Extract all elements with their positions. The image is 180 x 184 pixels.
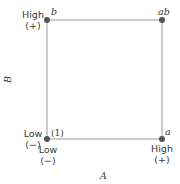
a-low-level: Low (−): [36, 144, 60, 166]
a-high-level: High (+): [149, 143, 175, 165]
corner-label-a: a: [165, 126, 171, 137]
point-ab: [159, 17, 165, 23]
point-b: [44, 17, 50, 23]
b-high-sign: (+): [22, 20, 44, 31]
corner-label-ab: ab: [158, 6, 170, 17]
b-high-text: High: [22, 9, 44, 20]
corner-label-one: (1): [51, 128, 64, 138]
a-high-text: High: [149, 143, 175, 154]
point-one: [44, 136, 50, 142]
b-high-level: High (+): [22, 9, 44, 31]
x-axis-label: A: [100, 170, 107, 181]
y-axis-label: B: [2, 76, 13, 83]
square-outline: [47, 20, 162, 139]
b-low-text: Low: [22, 128, 44, 139]
a-low-sign: (−): [36, 155, 60, 166]
a-low-text: Low: [36, 144, 60, 155]
corner-label-b: b: [51, 6, 57, 17]
a-high-sign: (+): [149, 154, 175, 165]
